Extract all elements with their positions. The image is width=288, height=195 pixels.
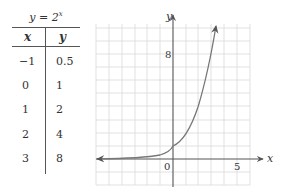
x-axis-label: x [267, 152, 274, 165]
graph: y x 0 5 8 [0, 0, 288, 195]
y-tick-8: 8 [165, 49, 171, 60]
x-tick-5: 5 [234, 161, 240, 172]
origin-label: 0 [164, 161, 170, 172]
y-axis-label: y [165, 10, 173, 23]
